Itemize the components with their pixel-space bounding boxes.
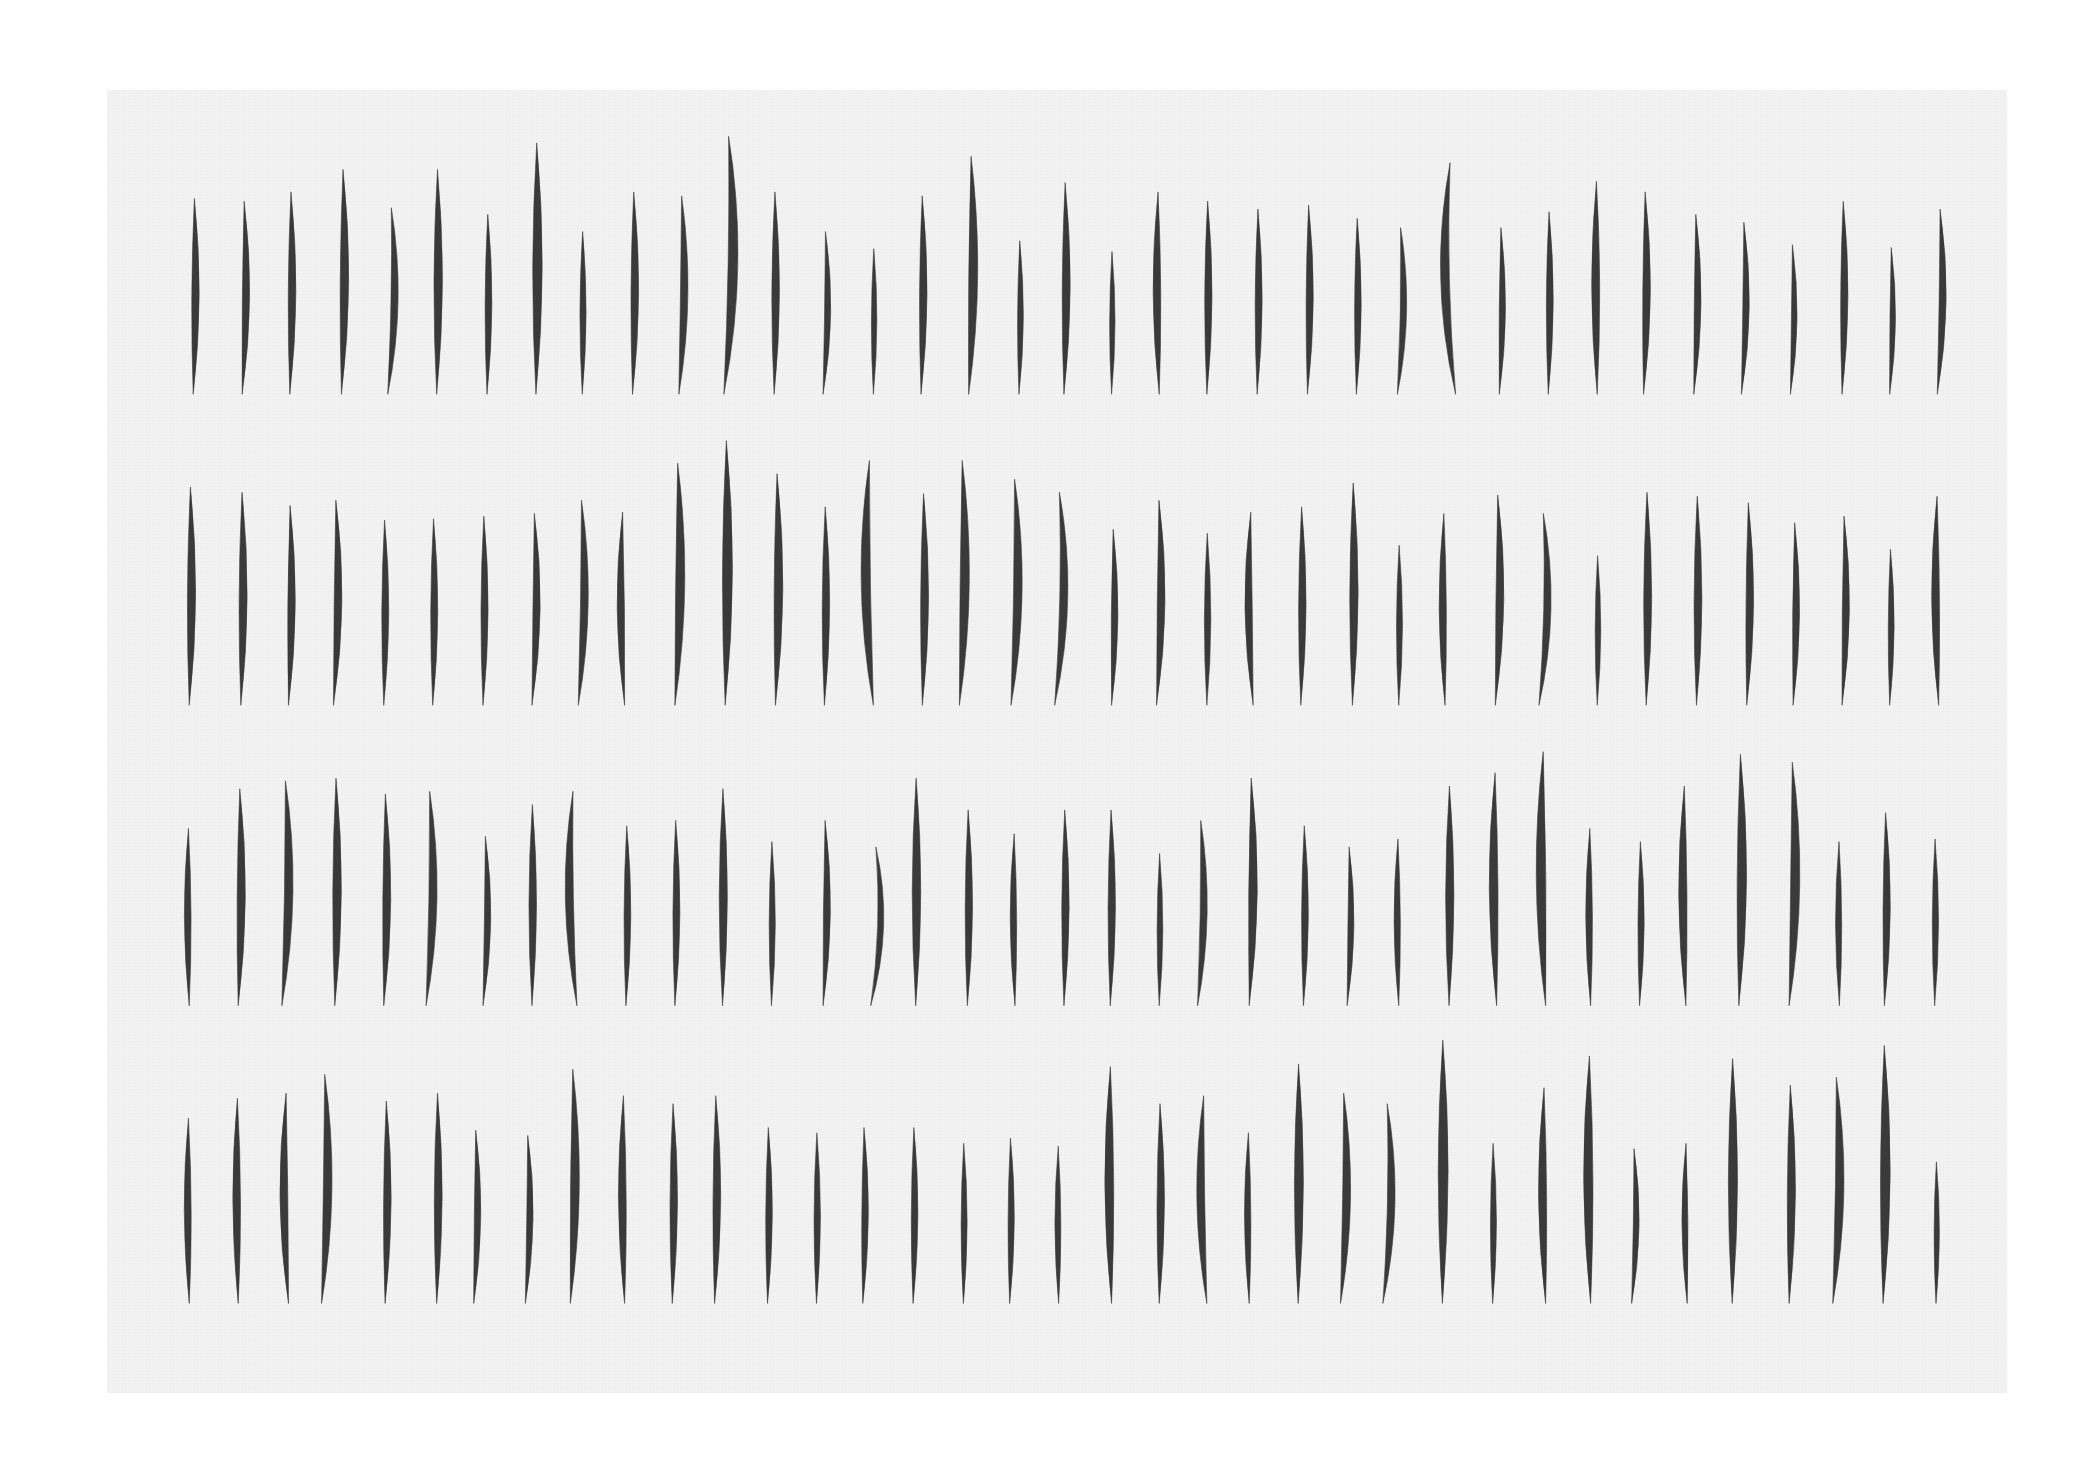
brush-stroke	[920, 196, 928, 394]
brush-stroke	[237, 789, 245, 1006]
brush-stroke	[713, 1096, 721, 1304]
brush-stroke	[862, 1127, 869, 1303]
brush-stroke	[184, 828, 191, 1005]
brush-stroke	[823, 820, 830, 1005]
brush-stroke	[1110, 251, 1115, 394]
brush-stroke	[322, 1075, 332, 1304]
brush-stroke	[1394, 839, 1400, 1006]
brush-stroke	[1536, 752, 1546, 1006]
brush-stroke	[1055, 1146, 1061, 1303]
brush-stroke	[1694, 496, 1702, 705]
brush-stroke	[580, 232, 586, 395]
brush-stroke	[1737, 754, 1747, 1005]
brush-stroke	[187, 487, 195, 705]
brush-stroke	[1153, 192, 1161, 394]
brush-stroke	[192, 198, 199, 394]
brush-stroke	[1793, 523, 1800, 706]
brush-stroke	[384, 1101, 392, 1303]
brush-stroke	[388, 208, 398, 395]
brush-stroke	[570, 1069, 579, 1303]
brush-stroke	[1397, 228, 1406, 395]
brush-stroke	[823, 232, 831, 395]
brush-stroke	[333, 778, 342, 1006]
brush-stroke	[673, 820, 680, 1005]
brush-stroke	[1198, 820, 1208, 1005]
brush-stroke	[675, 463, 685, 705]
brush-stroke	[481, 516, 488, 705]
brush-stroke	[333, 500, 341, 705]
brush-stroke	[1062, 810, 1069, 1006]
brush-stroke	[233, 1098, 241, 1303]
brush-stroke	[239, 492, 247, 705]
brush-stroke	[1157, 1104, 1165, 1304]
brush-stroke	[912, 778, 921, 1006]
brush-stroke	[822, 507, 829, 705]
brush-stroke	[525, 1135, 533, 1303]
brush-stroke	[1205, 201, 1212, 394]
brush-stroke	[1934, 1162, 1939, 1304]
brush-stroke	[1244, 1133, 1250, 1304]
brush-stroke	[624, 826, 631, 1006]
brush-stroke	[1396, 545, 1402, 705]
brush-stroke	[1787, 1085, 1795, 1303]
brush-stroke	[1937, 209, 1946, 394]
brush-stroke	[861, 461, 873, 706]
brush-stroke	[1299, 507, 1306, 705]
brush-stroke	[772, 192, 780, 394]
brush-stroke	[184, 1118, 191, 1303]
brush-stroke	[1439, 513, 1446, 705]
brush-stroke	[1841, 201, 1848, 394]
brush-stroke	[1746, 503, 1754, 705]
brush-stroke	[618, 1096, 626, 1304]
brush-stroke	[532, 513, 540, 705]
brush-stroke	[921, 494, 929, 706]
brush-stroke	[434, 1093, 442, 1303]
brush-stroke	[814, 1133, 820, 1304]
brush-stroke	[1741, 222, 1749, 394]
brush-stroke	[1789, 762, 1800, 1005]
brush-stroke	[1440, 163, 1455, 395]
brush-stroke	[382, 520, 389, 705]
brush-stroke	[965, 810, 972, 1006]
brush-stroke	[774, 474, 783, 706]
brush-stroke	[1489, 773, 1498, 1006]
brush-stroke	[1302, 826, 1309, 1006]
brush-stroke	[1157, 854, 1163, 1006]
brush-stroke	[483, 836, 491, 1005]
brush-stroke	[533, 143, 542, 394]
brush-stroke	[485, 214, 492, 394]
brush-stroke	[769, 842, 775, 1006]
brush-stroke	[565, 791, 577, 1005]
brush-stroke	[1355, 218, 1362, 394]
brush-stroke-artwork	[0, 0, 2075, 1467]
brush-stroke	[1204, 533, 1210, 705]
brush-stroke	[288, 192, 296, 394]
brush-stroke	[282, 781, 293, 1006]
brush-stroke	[1539, 513, 1551, 705]
brush-stroke	[431, 519, 438, 706]
brush-stroke	[911, 1127, 918, 1303]
brush-stroke	[1499, 228, 1505, 395]
brush-stroke	[1062, 183, 1070, 395]
brush-stroke	[1880, 1045, 1890, 1303]
brush-stroke	[1008, 1138, 1014, 1303]
brush-stroke	[1255, 209, 1262, 394]
brush-stroke	[968, 156, 977, 394]
brush-stroke	[1011, 479, 1022, 705]
brush-stroke	[1932, 839, 1938, 1006]
brush-stroke	[1694, 214, 1701, 394]
brush-stroke	[1490, 1143, 1496, 1303]
brush-stroke	[722, 441, 732, 706]
brush-stroke	[1836, 842, 1842, 1006]
brush-stroke	[280, 1093, 289, 1303]
brush-stroke	[1546, 212, 1553, 395]
brush-stroke	[1539, 1088, 1547, 1304]
brush-stroke	[1638, 842, 1644, 1006]
brush-stroke	[288, 506, 296, 706]
brush-stroke	[617, 512, 625, 705]
brush-stroke	[871, 847, 884, 1006]
brush-stroke	[670, 1104, 678, 1304]
brush-stroke	[1890, 247, 1896, 394]
brush-stroke	[434, 169, 442, 394]
brush-stroke	[1446, 786, 1454, 1006]
